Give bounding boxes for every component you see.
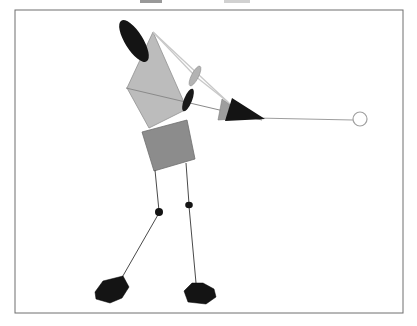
ball-circle	[353, 112, 367, 126]
figure-frame	[15, 10, 403, 313]
figure-canvas	[0, 0, 417, 326]
left-knee-dot	[155, 208, 163, 216]
right-knee-dot	[185, 202, 193, 208]
figure-svg	[0, 0, 417, 326]
